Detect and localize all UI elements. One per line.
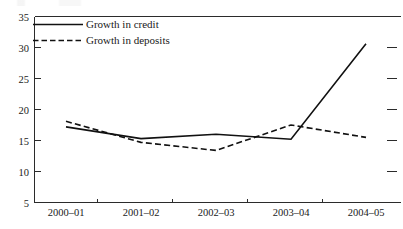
x-label-2000-01: 2000–01 bbox=[48, 207, 85, 218]
series-group bbox=[66, 44, 366, 151]
line-chart: 35 30 25 20 15 10 5 2000–01 2001–02 2002… bbox=[0, 0, 403, 229]
y-label-5: 5 bbox=[24, 198, 29, 209]
series-line-growth-in-deposits bbox=[66, 121, 366, 150]
y-label-30: 30 bbox=[19, 43, 30, 54]
y-axis-tick-labels: 35 30 25 20 15 10 5 bbox=[19, 12, 30, 209]
y-label-20: 20 bbox=[19, 105, 30, 116]
x-label-2001-02: 2001–02 bbox=[123, 207, 160, 218]
chart-legend: Growth in credit Growth in deposits bbox=[33, 18, 170, 46]
y-label-25: 25 bbox=[19, 74, 30, 85]
x-label-2004-05: 2004–05 bbox=[348, 207, 385, 218]
x-label-2002-03: 2002–03 bbox=[198, 207, 235, 218]
y-axis-ticks-right bbox=[387, 48, 397, 172]
y-label-35: 35 bbox=[19, 12, 30, 23]
series-line-growth-in-credit bbox=[66, 44, 366, 139]
y-label-10: 10 bbox=[19, 167, 30, 178]
x-label-2003-04: 2003–04 bbox=[273, 207, 311, 218]
chart-figure: 35 30 25 20 15 10 5 2000–01 2001–02 2002… bbox=[0, 0, 403, 229]
x-axis-tick-labels: 2000–01 2001–02 2002–03 2003–04 2004–05 bbox=[48, 207, 385, 218]
x-axis-ticks bbox=[98, 199, 323, 203]
legend-label-growth-in-credit: Growth in credit bbox=[86, 18, 159, 30]
y-label-15: 15 bbox=[19, 136, 30, 147]
y-axis-ticks-left bbox=[35, 17, 41, 203]
legend-label-growth-in-deposits: Growth in deposits bbox=[86, 34, 170, 46]
